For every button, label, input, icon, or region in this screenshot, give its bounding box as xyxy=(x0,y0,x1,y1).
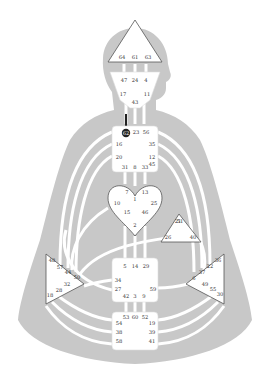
gate-20[interactable]: 20 xyxy=(116,154,123,160)
gate-17[interactable]: 17 xyxy=(120,91,127,97)
gate-22[interactable]: 22 xyxy=(207,263,214,269)
gate-2[interactable]: 2 xyxy=(133,222,136,228)
gate-61[interactable]: 61 xyxy=(132,54,139,60)
gate-42[interactable]: 42 xyxy=(123,293,130,299)
gate-54[interactable]: 54 xyxy=(116,320,123,326)
gate-27[interactable]: 27 xyxy=(115,286,122,292)
gate-39[interactable]: 39 xyxy=(149,329,156,335)
gate-46[interactable]: 46 xyxy=(142,209,149,215)
gate-63[interactable]: 63 xyxy=(145,54,152,60)
gate-18[interactable]: 18 xyxy=(47,292,54,298)
gate-38[interactable]: 38 xyxy=(116,329,123,335)
gate-59[interactable]: 59 xyxy=(150,286,157,292)
gate-24[interactable]: 24 xyxy=(132,77,139,83)
gate-13[interactable]: 13 xyxy=(142,189,149,195)
root-center[interactable]: 53 60 52 54 19 38 39 58 41 xyxy=(112,312,158,350)
gate-62[interactable]: 62 xyxy=(123,130,130,136)
gate-29[interactable]: 29 xyxy=(143,263,150,269)
gate-19[interactable]: 19 xyxy=(149,320,156,326)
gate-9[interactable]: 9 xyxy=(142,293,145,299)
gate-12[interactable]: 12 xyxy=(149,154,156,160)
gate-33[interactable]: 33 xyxy=(142,164,149,170)
gate-10[interactable]: 10 xyxy=(114,200,121,206)
gate-60[interactable]: 60 xyxy=(132,314,139,320)
gate-1[interactable]: 1 xyxy=(133,196,136,202)
gate-8[interactable]: 8 xyxy=(133,164,136,170)
gate-48[interactable]: 48 xyxy=(49,257,56,263)
gate-47[interactable]: 47 xyxy=(121,77,128,83)
gate-32[interactable]: 32 xyxy=(64,281,71,287)
gate-64[interactable]: 64 xyxy=(119,54,126,60)
gate-43[interactable]: 43 xyxy=(132,99,139,105)
gate-56[interactable]: 56 xyxy=(143,129,150,135)
gate-11[interactable]: 11 xyxy=(144,91,151,97)
gate-6[interactable]: 6 xyxy=(192,275,195,281)
gate-40[interactable]: 40 xyxy=(190,234,197,240)
sacral-center[interactable]: 5 14 29 34 27 59 42 3 9 xyxy=(112,258,158,302)
gate-52[interactable]: 52 xyxy=(142,314,149,320)
gate-16[interactable]: 16 xyxy=(116,141,123,147)
gate-58[interactable]: 58 xyxy=(116,338,123,344)
gate-3[interactable]: 3 xyxy=(133,293,136,299)
gate-50[interactable]: 50 xyxy=(74,274,81,280)
gate-7[interactable]: 7 xyxy=(125,189,128,195)
gate-5[interactable]: 5 xyxy=(123,263,126,269)
gate-15[interactable]: 15 xyxy=(124,209,131,215)
gate-26[interactable]: 26 xyxy=(165,234,172,240)
bodygraph-chart: 64 61 63 47 24 4 17 11 43 62 23 56 16 35… xyxy=(0,0,270,375)
gate-53[interactable]: 53 xyxy=(123,314,130,320)
gate-30[interactable]: 30 xyxy=(217,291,224,297)
gate-49[interactable]: 49 xyxy=(202,281,209,287)
gate-35[interactable]: 35 xyxy=(149,141,156,147)
gate-31[interactable]: 31 xyxy=(122,164,129,170)
gate-34[interactable]: 34 xyxy=(115,277,122,283)
gate-28[interactable]: 28 xyxy=(56,287,63,293)
gate-44[interactable]: 44 xyxy=(65,269,72,275)
gate-57[interactable]: 57 xyxy=(57,264,64,270)
gate-14[interactable]: 14 xyxy=(132,263,139,269)
gate-55[interactable]: 55 xyxy=(210,286,217,292)
gate-23[interactable]: 23 xyxy=(133,129,140,135)
gate-51[interactable]: 51 xyxy=(177,218,184,224)
gate-45[interactable]: 45 xyxy=(149,161,156,167)
gate-25[interactable]: 25 xyxy=(151,200,158,206)
gate-41[interactable]: 41 xyxy=(149,338,156,344)
gate-36[interactable]: 36 xyxy=(215,257,222,263)
gate-37[interactable]: 37 xyxy=(199,269,206,275)
throat-center[interactable]: 62 23 56 16 35 20 12 45 31 8 33 xyxy=(112,126,158,172)
